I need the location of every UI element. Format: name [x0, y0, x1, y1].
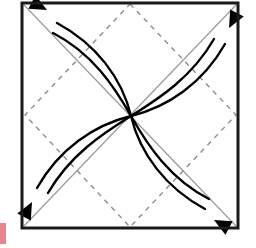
- figure-canvas: Pinwheel rotation diagram Square outline…: [0, 0, 256, 248]
- page-margin-marker: [0, 223, 6, 244]
- pinwheel-diagram: Pinwheel rotation diagram Square outline…: [0, 0, 256, 248]
